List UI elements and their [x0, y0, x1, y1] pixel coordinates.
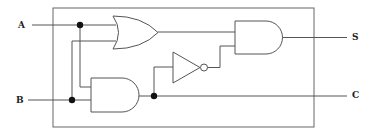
wire-not-to-and2	[208, 46, 236, 68]
and-gate-carry	[91, 78, 139, 112]
junction-a	[77, 22, 83, 28]
input-label-b: B	[16, 95, 24, 105]
output-label-c: C	[352, 90, 359, 100]
not-bubble	[201, 64, 208, 71]
half-adder-diagram: A B S C	[0, 0, 377, 138]
not-gate	[173, 52, 200, 83]
output-label-s: S	[352, 32, 359, 42]
input-label-a: A	[17, 20, 26, 30]
junction-carry	[151, 93, 157, 99]
or-gate	[113, 16, 158, 49]
wire-a-to-and1	[80, 25, 91, 87]
and-gate-sum	[235, 21, 283, 54]
junction-b	[69, 97, 75, 103]
wire-and1-to-not	[154, 67, 173, 96]
